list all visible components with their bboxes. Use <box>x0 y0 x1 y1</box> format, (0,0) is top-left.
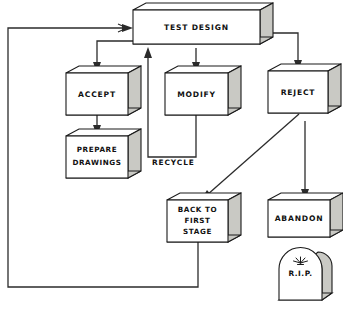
accept-label: ACCEPT <box>78 90 116 99</box>
rip-label: R.I.P. <box>288 269 312 278</box>
flowchart-diagram: TEST DESIGN ACCEPT MODIFY REJECT <box>0 0 343 313</box>
reject-label: REJECT <box>281 88 316 97</box>
back-label-line2: FIRST <box>184 216 210 225</box>
back-label-line3: STAGE <box>183 227 212 236</box>
node-modify[interactable]: MODIFY <box>165 66 241 115</box>
edge-test-design-to-accept <box>97 41 133 66</box>
node-abandon[interactable]: ABANDON <box>268 193 343 237</box>
edge-reject-to-back <box>207 114 299 195</box>
test-design-top-face <box>133 3 273 10</box>
recycle-edge-label: RECYCLE <box>152 158 195 167</box>
connector-layer <box>8 24 309 287</box>
node-prepare-drawings[interactable]: PREPARE DRAWINGS <box>66 129 141 178</box>
node-rip-tombstone[interactable]: R.I.P. <box>279 248 332 301</box>
node-accept[interactable]: ACCEPT <box>66 66 141 115</box>
node-reject[interactable]: REJECT <box>268 64 341 113</box>
arrowhead-recycle <box>144 47 152 58</box>
test-design-label: TEST DESIGN <box>164 23 229 32</box>
prepare-label-line1: PREPARE <box>77 145 118 154</box>
prepare-label-line2: DRAWINGS <box>72 158 121 167</box>
modify-label: MODIFY <box>177 90 216 99</box>
back-label-line1: BACK TO <box>178 205 218 214</box>
node-back-to-first-stage[interactable]: BACK TO FIRST STAGE <box>167 193 241 242</box>
node-test-design[interactable]: TEST DESIGN <box>133 3 273 44</box>
abandon-label: ABANDON <box>275 214 324 223</box>
flowchart-canvas: TEST DESIGN ACCEPT MODIFY REJECT <box>0 0 343 313</box>
